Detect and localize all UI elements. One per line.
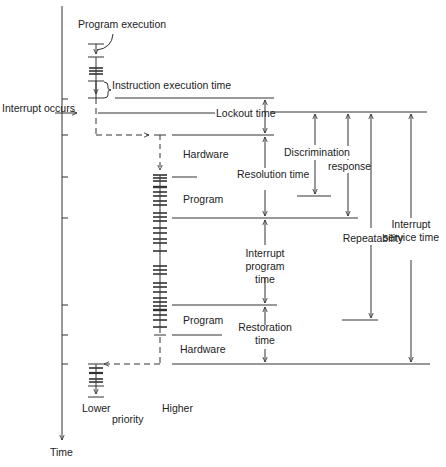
label-response: response [328,160,368,173]
label-higher: Higher [162,402,193,415]
label-hardware-top: Hardware [183,148,229,161]
label-restoration-time: Restoration time [233,321,297,347]
label-interrupt-program-time: Interrupt program time [238,247,292,286]
label-lockout-time: Lockout time [216,107,264,120]
label-lower: Lower [82,402,111,415]
label-priority: priority [112,413,144,426]
interrupt-timing-diagram: Program execution Instruction execution … [0,0,446,467]
label-instruction-execution-time: Instruction execution time [112,79,202,92]
label-program-top: Program [183,193,223,206]
label-time-axis: Time [50,446,73,459]
label-discrimination: Discrimination [280,146,354,159]
label-resolution-time: Resolution time [237,168,295,181]
label-program-execution: Program execution [78,18,136,31]
label-hardware-bottom: Hardware [180,343,226,356]
label-program-bottom: Program [183,314,223,327]
label-interrupt-occurs: Interrupt occurs [2,102,50,115]
label-interrupt-service-time: Interrupt service time [383,218,439,244]
